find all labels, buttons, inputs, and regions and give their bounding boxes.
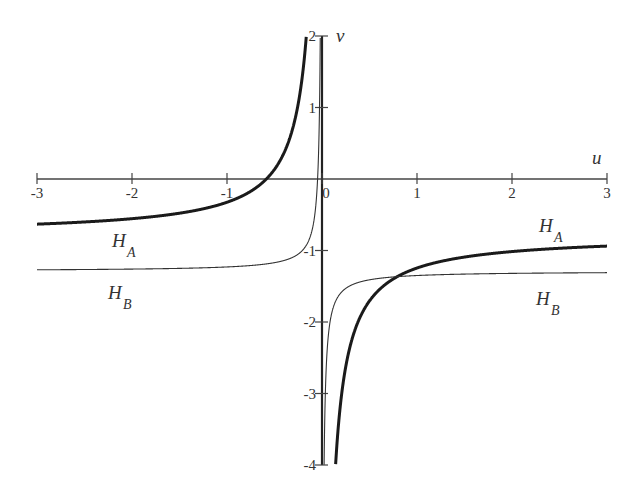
y-tick-label: 1 (309, 100, 317, 116)
x-tick-label: -1 (221, 185, 234, 201)
svg-text:H: H (538, 215, 554, 236)
svg-text:H: H (111, 230, 127, 251)
svg-text:A: A (126, 245, 136, 260)
y-axis-label: v (336, 25, 345, 46)
y-tick-label: -2 (304, 314, 317, 330)
hyperbola-chart: -3-2-1012321-1-2-3-4 u v H A H B H A H B (0, 0, 643, 491)
x-tick-label: -2 (126, 185, 139, 201)
curve-h-a (37, 37, 306, 224)
label-ha-left: H A (111, 230, 136, 260)
x-tick-label: 1 (413, 185, 421, 201)
y-tick-label: -1 (304, 243, 317, 259)
x-tick-label: 3 (603, 185, 611, 201)
x-tick-label: 0 (322, 185, 330, 201)
svg-text:A: A (553, 230, 563, 245)
label-hb-left: H B (107, 282, 132, 312)
svg-text:H: H (107, 282, 123, 303)
curve-h-b (324, 273, 607, 465)
label-hb-right: H B (535, 288, 560, 318)
y-tick-label: -3 (304, 386, 317, 402)
svg-text:B: B (123, 297, 132, 312)
x-tick-label: 2 (508, 185, 516, 201)
svg-text:H: H (535, 288, 551, 309)
x-axis-label: u (592, 147, 602, 168)
svg-text:B: B (551, 303, 560, 318)
chart-container: -3-2-1012321-1-2-3-4 u v H A H B H A H B (0, 0, 643, 491)
y-tick-label: 2 (309, 28, 317, 44)
label-ha-right: H A (538, 215, 563, 245)
y-tick-label: -4 (304, 457, 317, 473)
curve-h-b (37, 38, 320, 270)
x-tick-label: -3 (31, 185, 44, 201)
